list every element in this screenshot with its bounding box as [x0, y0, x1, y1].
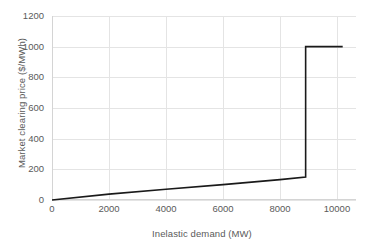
chart-container: Market clearing price ($/MWh) 0200400600…: [0, 0, 384, 248]
y-tick-label: 600: [28, 103, 44, 113]
y-tick-label: 200: [28, 164, 44, 174]
plot-area: [52, 16, 356, 200]
x-tick-label: 8000: [269, 203, 290, 215]
x-axis-title: Inelastic demand (MW): [52, 228, 352, 239]
y-tick-label: 0: [39, 195, 44, 205]
x-tick-label: 6000: [212, 203, 233, 215]
y-tick-label: 400: [28, 134, 44, 144]
series-polyline: [52, 47, 343, 200]
x-tick-label: 2000: [98, 203, 119, 215]
series-line-supply-curve: [52, 16, 356, 200]
x-axis-tick-labels: 0200040006000800010000: [52, 203, 356, 219]
x-tick-label: 4000: [155, 203, 176, 215]
y-axis-tick-labels: 020040060080010001200: [0, 16, 48, 200]
y-tick-label: 1000: [23, 42, 44, 52]
x-tick-label: 10000: [324, 203, 350, 215]
y-tick-label: 1200: [23, 11, 44, 21]
y-tick-label: 800: [28, 72, 44, 82]
gridline-horizontal: [52, 200, 356, 201]
x-tick-label: 0: [49, 203, 54, 215]
